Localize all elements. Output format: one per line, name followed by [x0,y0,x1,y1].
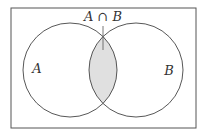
intersection-label: A ∩ B [83,9,122,24]
set-b-label: B [163,63,174,78]
set-a-label: A [31,61,41,76]
venn-diagram: A ∩ B A B [0,0,204,138]
